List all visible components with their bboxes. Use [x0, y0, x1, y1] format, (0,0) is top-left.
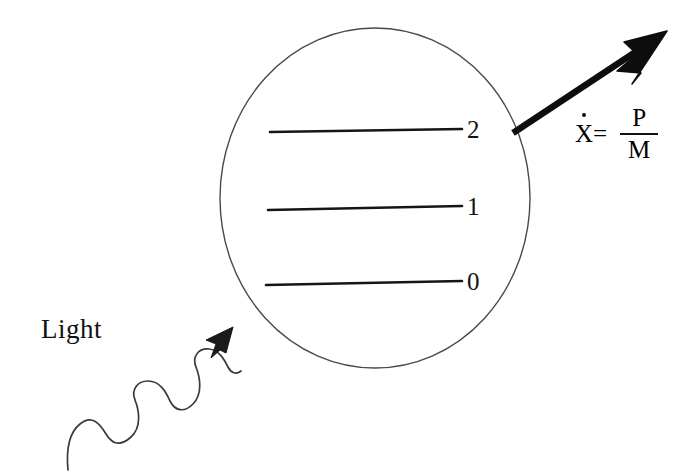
energy-level-line-0 [266, 281, 462, 285]
equation-variable-x: X [575, 120, 593, 148]
light-wave [68, 327, 242, 470]
energy-level-line-2 [270, 129, 462, 132]
fraction-numerator: P [628, 104, 650, 133]
light-label: Light [41, 316, 102, 343]
equation-fraction: P M [620, 104, 658, 164]
energy-level-line-1 [268, 206, 462, 210]
equation-variable-glyph: X [575, 120, 593, 147]
energy-level-label-2: 2 [467, 117, 480, 142]
time-derivative-dot-icon [582, 113, 586, 117]
recoil-velocity-equation: X = P M [575, 104, 658, 164]
atom-circle [220, 28, 530, 368]
light-wave-path [68, 349, 242, 470]
equation-left-hand-side: X = [575, 120, 608, 148]
atom-recoil-diagram: Light 2 1 0 X = P M [0, 0, 693, 473]
fraction-denominator: M [624, 135, 654, 164]
diagram-canvas [0, 0, 693, 473]
energy-level-label-1: 1 [467, 194, 480, 219]
equation-equals-sign: = [593, 120, 607, 148]
energy-level-label-0: 0 [467, 269, 480, 294]
energy-level-lines [266, 129, 462, 285]
